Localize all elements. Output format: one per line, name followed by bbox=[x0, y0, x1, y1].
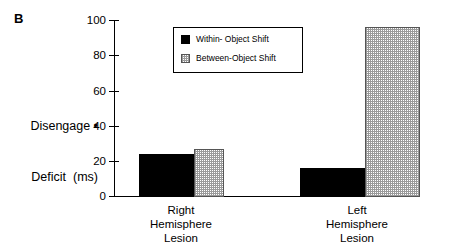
y-tick-label-80: 80 bbox=[64, 50, 106, 61]
x-label-1-line-3: Lesion bbox=[282, 231, 432, 245]
y-tick-label-0: 0 bbox=[64, 191, 106, 202]
legend-label-within-object-shift: Within- Object Shift bbox=[196, 35, 269, 44]
legend-item-within-object-shift: Within- Object Shift bbox=[181, 35, 269, 44]
x-label-0-line-3: Lesion bbox=[106, 231, 256, 245]
bar-right-hemisphere-within-object bbox=[139, 154, 194, 197]
y-tick-60 bbox=[109, 91, 119, 92]
y-tick-label-40: 40 bbox=[64, 121, 106, 132]
y-tick-40 bbox=[109, 126, 119, 127]
legend-swatch-solid-icon bbox=[181, 35, 190, 44]
y-axis-title-line-2: Deficit (ms) bbox=[2, 169, 98, 186]
y-tick-100 bbox=[109, 20, 119, 21]
x-label-0-line-2: Hemisphere bbox=[106, 217, 256, 231]
legend-box: Within- Object Shift Between-Object Shif… bbox=[173, 27, 303, 73]
bar-left-hemisphere-within-object bbox=[300, 168, 365, 197]
y-tick-label-20: 20 bbox=[64, 156, 106, 167]
x-label-1-line-1: Left bbox=[282, 203, 432, 217]
panel-label: B bbox=[14, 11, 24, 26]
y-axis-line bbox=[114, 20, 115, 197]
bar-right-hemisphere-between-object bbox=[194, 149, 224, 197]
x-axis-label-right-hemisphere-lesion: Right Hemisphere Lesion bbox=[106, 203, 256, 245]
legend-label-between-object-shift: Between-Object Shift bbox=[196, 54, 276, 63]
x-label-1-line-2: Hemisphere bbox=[282, 217, 432, 231]
y-tick-label-100: 100 bbox=[64, 15, 106, 26]
legend-item-between-object-shift: Between-Object Shift bbox=[181, 54, 276, 63]
y-tick-0 bbox=[109, 196, 119, 197]
x-axis-label-left-hemisphere-lesion: Left Hemisphere Lesion bbox=[282, 203, 432, 245]
figure-panel-b: B Disengage • Deficit (ms) 100 80 60 40 … bbox=[0, 0, 460, 249]
y-tick-80 bbox=[109, 55, 119, 56]
legend-swatch-stipple-icon bbox=[181, 54, 190, 63]
y-tick-label-60: 60 bbox=[64, 86, 106, 97]
y-tick-20 bbox=[109, 161, 119, 162]
x-label-0-line-1: Right bbox=[106, 203, 256, 217]
bar-left-hemisphere-between-object bbox=[365, 27, 420, 197]
